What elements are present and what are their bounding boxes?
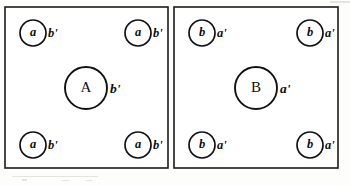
circle-inner-label: b [199, 137, 205, 151]
circle-inner-label: a [135, 25, 141, 39]
circle-inner-label: B [251, 79, 261, 95]
circle-inner-label: b [199, 25, 205, 39]
circle-side-label: a' [217, 26, 227, 40]
panel-b: ba'ba'ba'ba'Ba' [174, 7, 338, 168]
circle-side-label: b' [153, 26, 163, 40]
circle-inner-label: b [307, 137, 313, 151]
scan-artifact-edge [330, 1, 350, 3]
diagram-svg: ab'ab'ab'ab'Ab'ba'ba'ba'ba'Ba' [0, 0, 350, 185]
circle-side-label: b' [153, 138, 163, 152]
circle-side-label: a' [217, 138, 227, 152]
scan-artifact-line [12, 176, 98, 177]
circle-inner-label: a [30, 137, 36, 151]
circle-inner-label: a [135, 137, 141, 151]
scan-artifact-speck [62, 180, 69, 181]
circle-side-label: a' [325, 26, 335, 40]
circle-inner-label: A [81, 79, 92, 95]
circle-inner-label: a [30, 25, 36, 39]
circle-inner-label: b [307, 25, 313, 39]
circle-side-label: a' [325, 138, 335, 152]
circle-side-label: b' [48, 26, 58, 40]
figure-canvas: ab'ab'ab'ab'Ab'ba'ba'ba'ba'Ba' [0, 0, 350, 185]
circle-side-label: b' [110, 81, 121, 96]
circle-side-label: a' [280, 81, 291, 96]
scan-artifact-speck [22, 179, 27, 181]
scan-artifact-speck [86, 180, 92, 181]
circle-side-label: b' [48, 138, 58, 152]
panel-a: ab'ab'ab'ab'Ab' [5, 7, 168, 168]
